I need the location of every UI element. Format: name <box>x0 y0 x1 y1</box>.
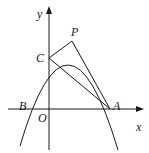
segment-pa <box>72 41 110 109</box>
segment-cp <box>49 41 72 58</box>
point-c-label: C <box>36 51 45 65</box>
y-axis-label: y <box>36 7 43 21</box>
parabola-diagram: y x O A B C P <box>0 0 149 153</box>
y-axis-arrow-icon <box>46 6 52 14</box>
point-p-label: P <box>70 25 79 39</box>
x-axis-arrow-icon <box>136 106 144 112</box>
origin-label: O <box>38 111 47 125</box>
point-b-label: B <box>19 99 27 113</box>
x-axis-label: x <box>135 120 142 134</box>
point-a-label: A <box>112 99 121 113</box>
segment-ca <box>49 58 110 109</box>
parabola-curve <box>20 65 118 150</box>
